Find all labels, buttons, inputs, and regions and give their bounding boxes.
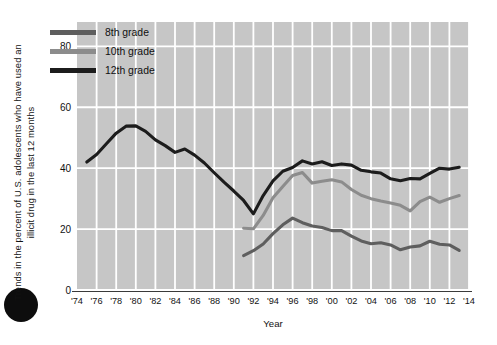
legend-label: 10th grade <box>105 46 155 57</box>
x-tick-label: '14 <box>457 296 481 306</box>
legend-item: 8th grade <box>50 24 230 41</box>
legend-label: 8th grade <box>105 27 149 38</box>
legend-swatch-icon <box>50 68 96 73</box>
chart-figure: Trends in the percent of U.S. adolescent… <box>0 0 497 345</box>
legend-swatch-icon <box>50 30 96 35</box>
x-axis-title: Year <box>77 318 469 329</box>
legend-label: 12th grade <box>105 65 155 76</box>
legend-item: 10th grade <box>50 43 230 60</box>
legend-swatch-icon <box>50 49 96 54</box>
chart-legend: 8th grade10th grade12th grade <box>50 24 230 81</box>
legend-item: 12th grade <box>50 62 230 79</box>
